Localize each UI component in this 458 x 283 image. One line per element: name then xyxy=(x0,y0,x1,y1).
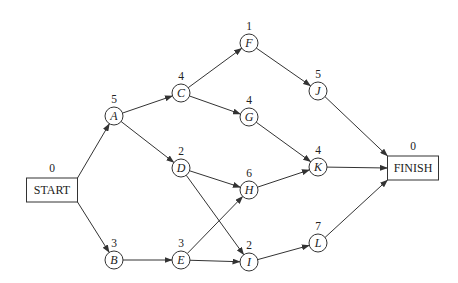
duration-label: 0 xyxy=(49,162,55,174)
node-label: FINISH xyxy=(394,161,433,175)
node-label: E xyxy=(176,253,185,267)
edge-e-to-i xyxy=(190,260,240,261)
node-start: START0 xyxy=(27,162,78,202)
edge-start-to-b xyxy=(78,202,110,252)
node-label: L xyxy=(314,236,322,250)
duration-label: 7 xyxy=(315,220,321,232)
duration-label: 1 xyxy=(246,20,252,32)
duration-label: 4 xyxy=(246,94,252,106)
node-f: F1 xyxy=(240,20,258,52)
node-label: H xyxy=(244,183,255,197)
node-c: C4 xyxy=(172,70,190,102)
node-label: G xyxy=(245,110,254,124)
edge-g-to-k xyxy=(256,122,310,161)
edge-start-to-a xyxy=(78,124,110,178)
network-diagram: START0A5B3C4D2E3F1G4H6I2J5K4L7FINISH0 xyxy=(0,0,458,283)
diagram-canvas: START0A5B3C4D2E3F1G4H6I2J5K4L7FINISH0 xyxy=(0,0,458,283)
duration-label: 6 xyxy=(246,167,252,179)
node-k: K4 xyxy=(309,144,327,176)
node-a: A5 xyxy=(105,93,123,125)
node-label: B xyxy=(110,253,118,267)
duration-label: 2 xyxy=(178,145,184,157)
duration-label: 4 xyxy=(178,70,184,82)
edge-e-to-h xyxy=(187,196,242,253)
node-label: F xyxy=(244,36,253,50)
edge-c-to-g xyxy=(189,96,240,114)
edge-c-to-f xyxy=(188,48,241,87)
duration-label: 3 xyxy=(111,237,117,249)
edge-k-to-finish xyxy=(327,167,388,168)
duration-label: 5 xyxy=(111,93,117,105)
edge-j-to-finish xyxy=(325,97,388,156)
edge-a-to-d xyxy=(121,122,174,163)
node-l: L7 xyxy=(309,220,327,252)
edge-d-to-h xyxy=(190,171,241,187)
duration-label: 5 xyxy=(315,68,321,80)
duration-label: 0 xyxy=(410,140,416,152)
node-j: J5 xyxy=(309,68,327,100)
duration-label: 4 xyxy=(315,144,321,156)
node-d: D2 xyxy=(172,145,190,177)
node-label: J xyxy=(315,84,321,98)
edge-d-to-i xyxy=(186,175,243,254)
duration-label: 3 xyxy=(178,237,184,249)
node-e: E3 xyxy=(172,237,190,269)
node-label: START xyxy=(34,183,71,197)
duration-label: 2 xyxy=(246,239,252,251)
node-h: H6 xyxy=(240,167,258,199)
edge-f-to-j xyxy=(256,48,310,86)
node-b: B3 xyxy=(105,237,123,269)
edge-h-to-k xyxy=(258,170,310,187)
node-label: K xyxy=(313,160,323,174)
node-i: I2 xyxy=(240,239,258,271)
node-label: A xyxy=(109,109,118,123)
edges-layer xyxy=(78,48,388,262)
node-finish: FINISH0 xyxy=(388,140,439,180)
node-label: C xyxy=(177,86,186,100)
node-g: G4 xyxy=(240,94,258,126)
edge-l-to-finish xyxy=(325,180,387,237)
edge-a-to-c xyxy=(123,96,173,113)
node-label: D xyxy=(176,161,186,175)
edge-i-to-l xyxy=(258,245,310,259)
